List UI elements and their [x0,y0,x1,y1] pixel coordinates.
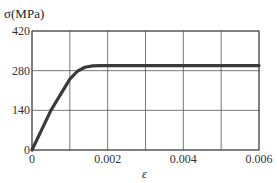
y-tick-label: 140 [12,103,30,117]
x-tick-labels: 00.0020.0040.006 [29,152,273,166]
x-tick-label: 0.002 [94,152,121,166]
stress-strain-chart: 0140280420 00.0020.0040.006 σ(MPa) ε [0,0,277,183]
y-tick-label: 280 [12,64,30,78]
x-tick-label: 0 [29,152,35,166]
y-tick-labels: 0140280420 [12,24,30,157]
x-tick-label: 0.006 [246,152,273,166]
x-axis-label: ε [142,166,148,181]
grid [32,31,259,150]
y-axis-label: σ(MPa) [4,6,44,21]
x-tick-label: 0.004 [170,152,197,166]
y-tick-label: 420 [12,24,30,38]
